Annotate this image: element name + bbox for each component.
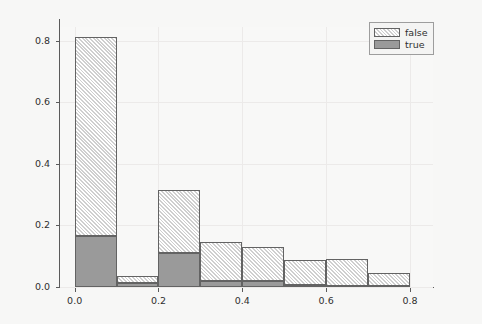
x-tick-mark — [410, 288, 411, 292]
x-tick-mark — [326, 288, 327, 292]
legend-item-false[interactable]: false — [374, 27, 428, 38]
x-tick-label: 0.8 — [402, 295, 417, 306]
legend[interactable]: false true — [369, 22, 434, 55]
x-tick-label: 0.6 — [319, 295, 334, 306]
x-tick-mark — [158, 288, 159, 292]
legend-swatch-true — [374, 40, 400, 49]
x-tick-mark — [75, 288, 76, 292]
legend-label-true: true — [405, 39, 425, 50]
x-tick-mark — [242, 288, 243, 292]
histogram-figure: 0.00.20.40.60.8 0.00.20.40.60.8 false tr… — [0, 0, 482, 324]
x-tick-label: 0.2 — [151, 295, 166, 306]
legend-label-false: false — [405, 27, 428, 38]
x-tick-label: 0.0 — [67, 295, 82, 306]
x-tick-label: 0.4 — [235, 295, 250, 306]
legend-item-true[interactable]: true — [374, 39, 428, 50]
legend-swatch-false — [374, 28, 400, 37]
